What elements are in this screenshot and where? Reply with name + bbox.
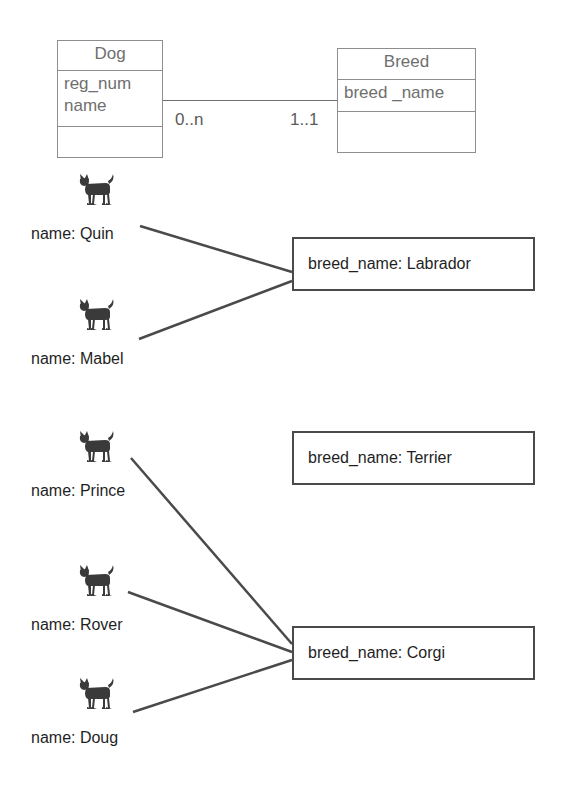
object-node-mabel[interactable]: name: Mabel [72,293,192,371]
object-label-rover: name: Rover [31,615,123,635]
class-name-dog: Dog [58,41,162,71]
class-name-breed: Breed [338,49,475,80]
dog-icon [72,559,118,599]
class-attributes-dog: reg_num name [58,71,162,127]
object-node-quin[interactable]: name: Quin [72,168,192,246]
object-label-labrador: breed_name: Labrador [294,254,471,274]
dog-icon [72,168,118,208]
object-node-prince[interactable]: name: Prince [72,425,192,503]
object-node-labrador[interactable]: breed_name: Labrador [292,237,535,291]
object-label-mabel: name: Mabel [31,349,124,369]
object-node-doug[interactable]: name: Doug [72,672,192,750]
class-operations-breed [338,112,475,152]
multiplicity-source: 0..n [175,110,203,130]
class-attributes-breed: breed _name [338,80,475,112]
object-label-terrier: breed_name: Terrier [294,448,452,468]
object-label-doug: name: Doug [31,728,118,748]
object-node-rover[interactable]: name: Rover [72,559,192,637]
object-label-corgi: breed_name: Corgi [294,643,445,663]
object-label-prince: name: Prince [31,481,125,501]
dog-icon [72,672,118,712]
multiplicity-target: 1..1 [290,110,318,130]
diagram-canvas: Dog reg_num name Breed breed _name 0..n … [0,0,574,791]
class-operations-dog [58,127,162,157]
dog-icon [72,293,118,333]
association-line-dog-breed [163,100,337,101]
class-box-breed[interactable]: Breed breed _name [337,48,476,153]
object-node-terrier[interactable]: breed_name: Terrier [292,431,535,485]
class-box-dog[interactable]: Dog reg_num name [57,40,163,158]
object-label-quin: name: Quin [31,224,114,244]
dog-icon [72,425,118,465]
object-node-corgi[interactable]: breed_name: Corgi [292,626,535,680]
